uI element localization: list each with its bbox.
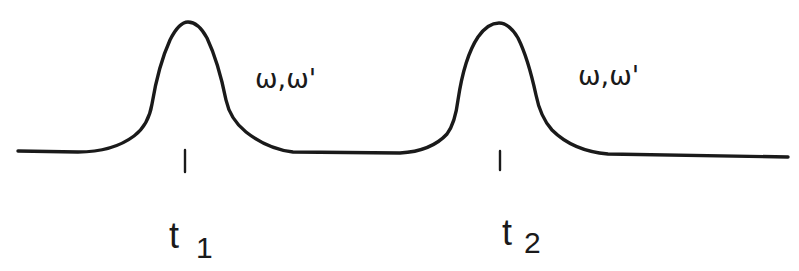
frequency-label-pulse-1: ω,ω' xyxy=(255,63,316,94)
pulse-sequence-diagram: ω,ω' ω,ω' t 1 t 2 xyxy=(0,0,799,271)
time-label-t1-subscript: 1 xyxy=(196,231,213,264)
pulse-waveform xyxy=(18,22,788,157)
time-label-t2-base: t xyxy=(502,212,512,253)
time-label-t1: t 1 xyxy=(169,215,213,264)
frequency-label-pulse-2: ω,ω' xyxy=(578,60,639,91)
time-label-t1-base: t xyxy=(169,215,179,256)
time-label-t2-subscript: 2 xyxy=(524,226,541,259)
time-label-t2: t 2 xyxy=(502,212,541,259)
